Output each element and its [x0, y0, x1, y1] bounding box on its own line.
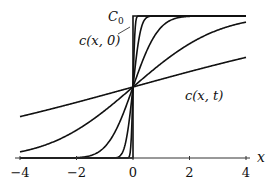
x-tick-label: 4 — [242, 165, 250, 180]
x-tick-label: 2 — [185, 165, 193, 180]
initial-profile-label: c(x, 0) — [79, 33, 120, 48]
x-tick-label: −4 — [10, 165, 29, 180]
x-tick-label: 0 — [129, 165, 137, 180]
diffusion-chart: −4−2024 x C0 c(x, 0) c(x, t) — [0, 0, 276, 187]
general-profile-label: c(x, t) — [185, 88, 223, 103]
c0-label: C0 — [108, 9, 124, 26]
initial-profile-leader — [118, 27, 130, 34]
x-axis-ticks: −4−2024 — [10, 156, 250, 180]
x-tick-label: −2 — [67, 165, 86, 180]
concentration-curves — [20, 16, 246, 158]
x-axis-label: x — [257, 149, 265, 165]
